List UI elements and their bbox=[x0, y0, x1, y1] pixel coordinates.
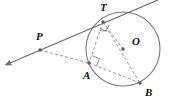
label-o: O bbox=[132, 35, 140, 47]
segment-TO bbox=[103, 22, 123, 49]
label-p: P bbox=[36, 30, 43, 42]
point-a bbox=[87, 61, 90, 64]
geometry-diagram: TPOAB bbox=[0, 0, 173, 101]
segment-PA bbox=[40, 50, 89, 63]
label-b: B bbox=[144, 86, 152, 98]
point-b bbox=[138, 81, 141, 84]
segment-TB bbox=[103, 22, 140, 83]
vertex-labels-group: TPOAB bbox=[36, 1, 152, 98]
tangent-line-PT bbox=[10, 0, 158, 63]
geometry-canvas: TPOAB bbox=[0, 0, 173, 101]
label-a: A bbox=[82, 69, 90, 81]
tangent-line-group bbox=[10, 0, 158, 63]
point-t bbox=[101, 20, 104, 23]
point-p bbox=[38, 48, 41, 51]
label-t: T bbox=[100, 1, 108, 13]
angle-arc-at-T bbox=[100, 30, 106, 31]
point-o bbox=[121, 47, 124, 50]
